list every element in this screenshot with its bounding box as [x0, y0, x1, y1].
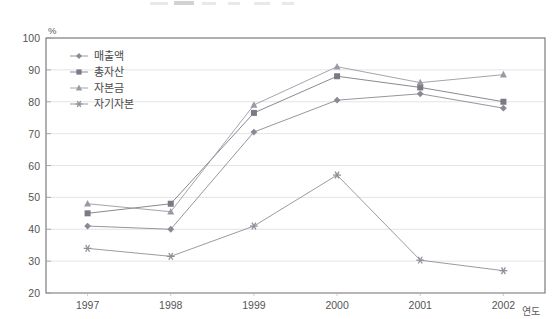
series-line	[88, 76, 504, 213]
x-axis-tick-label: 2002	[492, 299, 516, 311]
triangle-marker	[334, 63, 341, 70]
star-marker	[167, 253, 175, 260]
y-axis-tick-labels: 2030405060708090100	[22, 32, 51, 299]
y-axis-tick-label: 30	[28, 255, 40, 267]
star-marker	[500, 267, 508, 274]
x-axis-tick-label: 1997	[76, 299, 100, 311]
triangle-marker	[76, 85, 82, 91]
square-marker	[168, 201, 174, 207]
y-axis-tick-label: 40	[28, 223, 40, 235]
y-axis-tick-label: 20	[28, 287, 40, 299]
square-marker	[334, 73, 340, 79]
y-axis-tick-label: 50	[28, 191, 40, 203]
square-marker	[76, 69, 81, 74]
star-marker	[84, 245, 92, 252]
y-axis-tick-label: 60	[28, 160, 40, 172]
star-marker	[250, 223, 258, 230]
series-diamond	[84, 90, 507, 232]
y-axis-tick-label: 100	[22, 32, 40, 44]
line-chart: 2030405060708090100 19971998199920002001…	[0, 0, 559, 319]
square-marker	[85, 210, 91, 216]
chart-legend: 매출액총자산자본금자기자본	[70, 50, 134, 111]
series-line	[88, 175, 504, 271]
series-square	[85, 73, 507, 216]
chart-canvas: 2030405060708090100 19971998199920002001…	[0, 0, 559, 319]
y-axis-tick-label: 70	[28, 128, 40, 140]
diamond-marker	[334, 97, 341, 104]
y-axis-tick-label: 80	[28, 96, 40, 108]
clipped-artifact-strip	[150, 0, 320, 7]
legend-item-1[interactable]: 매출액	[70, 50, 124, 63]
legend-item-3[interactable]: 자본금	[70, 82, 124, 95]
legend-label: 자본금	[94, 82, 124, 95]
series-triangle	[84, 63, 507, 215]
square-marker	[251, 110, 257, 116]
y-axis-unit-label: %	[48, 25, 57, 36]
diamond-marker	[84, 223, 91, 230]
square-marker	[500, 99, 506, 105]
series-line	[88, 67, 504, 212]
x-axis-tick-label: 2001	[409, 299, 433, 311]
diamond-marker	[500, 105, 507, 112]
legend-item-2[interactable]: 총자산	[70, 66, 124, 79]
series-star	[84, 172, 508, 274]
x-axis-tick-label: 1998	[159, 299, 183, 311]
legend-label: 자기자본	[94, 98, 134, 111]
legend-item-4[interactable]: 자기자본	[70, 98, 134, 111]
triangle-marker	[500, 71, 507, 78]
x-axis-tick-label: 2000	[325, 299, 349, 311]
x-axis-tick-label: 1999	[242, 299, 266, 311]
triangle-marker	[84, 200, 91, 207]
x-axis-tick-labels: 199719981999200020012002	[76, 293, 515, 311]
x-axis-title: 연도	[522, 306, 540, 317]
legend-label: 총자산	[94, 66, 124, 79]
series-layer	[84, 63, 508, 274]
legend-label: 매출액	[94, 50, 124, 63]
diamond-marker	[76, 53, 82, 59]
y-axis-tick-label: 90	[28, 64, 40, 76]
series-line	[88, 94, 504, 229]
triangle-marker	[250, 101, 257, 108]
diamond-marker	[417, 90, 424, 97]
